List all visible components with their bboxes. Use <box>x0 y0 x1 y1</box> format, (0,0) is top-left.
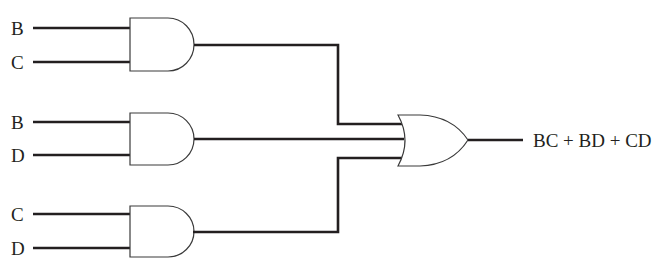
wire-cd <box>193 158 402 232</box>
and-gate-1-icon <box>130 18 194 71</box>
intermediate-wires <box>193 45 404 232</box>
output-expression: BC + BD + CD <box>533 130 652 151</box>
input-label-c-3: C <box>11 204 24 225</box>
input-label-b-2: B <box>11 112 24 133</box>
logic-circuit-diagram: B C B D C D BC + BD + CD <box>0 0 671 271</box>
input-label-b-1: B <box>11 18 24 39</box>
input-label-c-1: C <box>11 52 24 73</box>
input-wires <box>33 28 131 248</box>
and-gate-3-icon <box>130 206 194 257</box>
input-label-d-2: D <box>11 145 25 166</box>
wire-bc <box>194 45 402 124</box>
input-label-d-3: D <box>11 238 25 259</box>
and-gate-2-icon <box>130 113 194 165</box>
or-gate-icon <box>398 115 468 166</box>
